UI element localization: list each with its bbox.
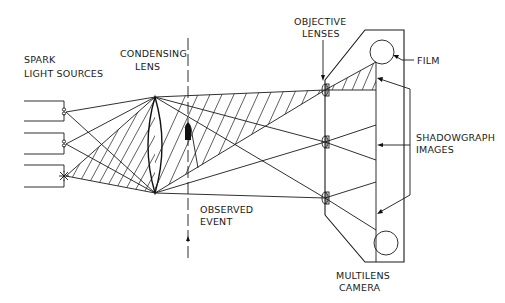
label-film: FILM <box>417 55 440 66</box>
shadowgraph-arrow-icon <box>377 143 383 147</box>
shadowgraph-arrow-icon <box>377 209 383 214</box>
source-bracket-2 <box>24 133 64 154</box>
objective-arrow-icon <box>321 75 325 81</box>
label-event: EVENT <box>200 216 232 227</box>
film-roll-top <box>370 40 394 64</box>
spark-gap-electrode <box>62 108 65 111</box>
label-images: IMAGES <box>416 144 454 155</box>
label-lenses: LENSES <box>302 28 340 39</box>
label-spark: SPARK <box>24 54 56 65</box>
illuminated-beam-hatch <box>138 90 320 200</box>
film-roll-bottom <box>374 231 398 255</box>
film-arrow-icon <box>393 55 399 59</box>
spark-gap-electrode <box>62 140 65 143</box>
label-shadowgraph: SHADOWGRAPH <box>416 132 495 143</box>
illuminated-cone-source-hatch <box>50 90 200 200</box>
label-condensing: CONDENSING <box>120 48 187 59</box>
label-light-sources: LIGHT SOURCES <box>24 68 103 79</box>
multilens-camera <box>322 30 404 262</box>
label-pointers <box>321 40 414 214</box>
shadowgraph-bracket <box>380 89 410 212</box>
spark-light-sources <box>24 101 69 187</box>
label-multilens: MULTILENS <box>336 270 390 281</box>
source-bracket-1 <box>24 101 64 121</box>
label-lens: LENS <box>135 61 160 72</box>
shadowgraph-camera-diagram: SPARK LIGHT SOURCES CONDENSING LENS OBJE… <box>0 0 505 303</box>
label-objective: OBJECTIVE <box>294 16 346 27</box>
source-bracket-3 <box>24 165 64 187</box>
label-camera: CAMERA <box>339 282 381 293</box>
event-plane-arrow-icon <box>186 236 190 241</box>
label-observed: OBSERVED <box>200 204 253 215</box>
shadowgraph-arrow-icon <box>377 77 383 82</box>
